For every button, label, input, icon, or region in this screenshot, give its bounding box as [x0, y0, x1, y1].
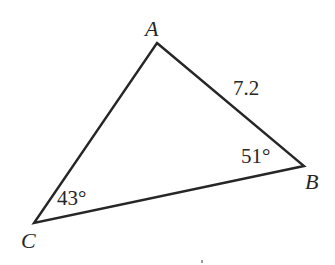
side-ab-length-label: 7.2 — [233, 78, 259, 99]
scan-artifact-dot — [201, 260, 203, 263]
vertex-label-a: A — [145, 18, 158, 40]
vertex-label-b: B — [305, 171, 318, 193]
vertex-label-c: C — [21, 230, 36, 252]
triangle-diagram — [0, 0, 335, 265]
angle-c-label: 43° — [57, 188, 86, 209]
angle-b-label: 51° — [241, 146, 270, 167]
